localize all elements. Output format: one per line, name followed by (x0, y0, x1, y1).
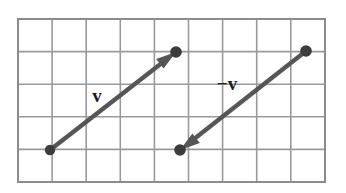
vector-negative-v-label: −v (217, 73, 238, 94)
vector-diagram-svg: v −v (0, 0, 346, 193)
vector-figure: v −v (0, 0, 346, 193)
vector-v-label: v (92, 85, 102, 106)
vector-v-head-dot (170, 46, 182, 58)
vector-negative-v-head-dot (174, 144, 186, 156)
vector-v-tail-dot (45, 145, 55, 155)
vector-negative-v-tail-dot (300, 45, 312, 57)
